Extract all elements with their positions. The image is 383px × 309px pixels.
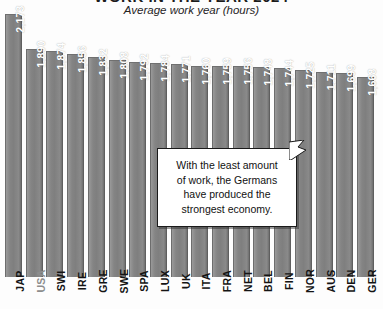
category-label-text: ITA — [200, 272, 212, 289]
plot-area: 2,1731,8901,8741,8561,8321,8081,7921,784… — [3, 14, 380, 277]
category-label-text: FIN — [283, 272, 295, 290]
bar-den: 1,699 — [336, 73, 353, 277]
category-label-text: SPA — [138, 270, 150, 292]
category-label-ger: GER — [357, 279, 374, 309]
category-label-uk: UK — [171, 279, 188, 309]
category-label-den: DEN — [336, 279, 353, 309]
category-label-fra: FRA — [212, 279, 229, 309]
bar-aus: 1,711 — [316, 72, 333, 277]
category-label-swe: SWE — [109, 279, 126, 309]
bar-gre: 1,832 — [88, 57, 105, 277]
category-label-text: GER — [366, 269, 378, 293]
bar-swe: 1,808 — [109, 60, 126, 277]
bar-value-label: 1,699 — [345, 64, 357, 91]
bar-value-label: 1,711 — [325, 64, 337, 91]
category-label-jap: JAP — [5, 279, 22, 309]
bar-nor: 1,725 — [295, 70, 312, 277]
bar-value-label: 2,173 — [14, 5, 26, 32]
category-label-text: FRA — [221, 270, 233, 292]
category-label-text: USA — [35, 269, 47, 292]
category-label-lux: LUX — [150, 279, 167, 309]
bar-value-label: 1,856 — [76, 45, 88, 72]
bar-value-label: 1,756 — [242, 57, 254, 84]
category-label-swi: SWI — [46, 279, 63, 309]
bar-value-label: 1,759 — [221, 57, 233, 84]
callout-line-4: strongest economy. — [165, 202, 289, 217]
bar-jap: 2,173 — [5, 14, 22, 277]
chart-page: WORK IN THE YEAR 2024 Average work year … — [0, 0, 383, 309]
category-label-text: NET — [242, 270, 254, 292]
category-label-gre: GRE — [88, 279, 105, 309]
category-label-usa: USA — [26, 279, 43, 309]
bar-value-label: 1,832 — [97, 48, 109, 75]
category-label-ita: ITA — [191, 279, 208, 309]
bar-ire: 1,856 — [67, 54, 84, 277]
bar-value-label: 1,760 — [200, 57, 212, 84]
category-label-text: JAP — [14, 270, 26, 291]
category-label-text: DEN — [345, 269, 357, 292]
category-label-ire: IRE — [67, 279, 84, 309]
bar-spa: 1,792 — [129, 62, 146, 277]
bar-swi: 1,874 — [46, 51, 63, 277]
category-label-text: AUS — [325, 269, 337, 292]
category-label-text: BEL — [262, 270, 274, 292]
category-label-fin: FIN — [274, 279, 291, 309]
bar-value-label: 1,771 — [180, 55, 192, 82]
bar-value-label: 1,668 — [366, 68, 378, 95]
category-label-aus: AUS — [316, 279, 333, 309]
category-label-text: GRE — [97, 269, 109, 293]
bar-value-label: 1,748 — [262, 58, 274, 85]
callout-line-1: With the least amount — [165, 158, 289, 173]
bar-value-label: 1,725 — [304, 61, 316, 88]
callout-annotation: With the least amount of work, the Germa… — [157, 148, 297, 227]
category-label-text: IRE — [76, 272, 88, 290]
bar-value-label: 1,744 — [283, 59, 295, 86]
bar-value-label: 1,808 — [118, 51, 130, 78]
bar-value-label: 1,890 — [35, 40, 47, 67]
bar-usa: 1,890 — [26, 49, 43, 277]
category-label-spa: SPA — [129, 279, 146, 309]
category-label-net: NET — [233, 279, 250, 309]
bar-value-label: 1,792 — [138, 53, 150, 80]
bar-value-label: 1,874 — [55, 42, 67, 69]
bar-value-label: 1,784 — [159, 54, 171, 81]
category-label-text: UK — [180, 273, 192, 289]
category-label-nor: NOR — [295, 279, 312, 309]
callout-line-2: of work, the Germans — [165, 173, 289, 188]
category-label-text: SWE — [118, 269, 130, 294]
callout-line-3: have produced the — [165, 187, 289, 202]
category-axis: JAPUSASWIIREGRESWESPALUXUKITAFRANETBELFI… — [3, 279, 380, 309]
bar-ger: 1,668 — [357, 77, 374, 277]
category-label-text: LUX — [159, 270, 171, 292]
category-label-bel: BEL — [253, 279, 270, 309]
category-label-text: SWI — [55, 271, 67, 292]
category-label-text: NOR — [304, 269, 316, 293]
